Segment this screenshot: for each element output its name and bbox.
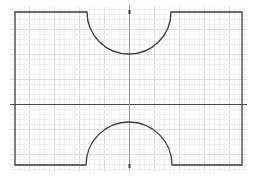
sketch-canvas[interactable]	[0, 0, 255, 181]
axis-top-marker-icon	[129, 10, 131, 14]
grid	[10, 7, 247, 172]
axis-bottom-marker-icon	[129, 164, 131, 168]
